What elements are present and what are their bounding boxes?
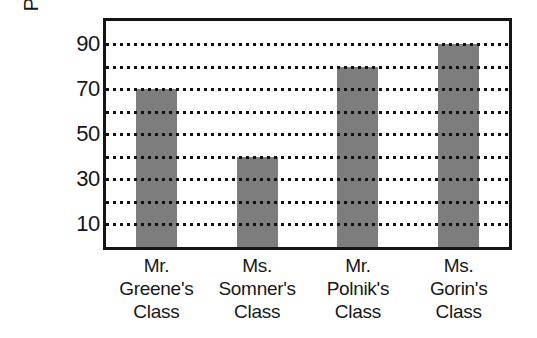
x-category-label-line: Mr. (106, 254, 207, 277)
x-category-label-line: Class (106, 300, 207, 323)
gridline-30 (106, 178, 509, 181)
y-tick-label-50: 50 (52, 123, 100, 145)
bar-chart-figure: Pounds of paper 9070503010 Mr.Greene'sCl… (0, 0, 537, 338)
x-axis-category-labels: Mr.Greene'sClassMs.Somner'sClassMr.Polni… (103, 254, 512, 338)
x-category-label-line: Mr. (308, 254, 409, 277)
gridline-40 (106, 156, 509, 159)
x-category-label-line: Ms. (408, 254, 509, 277)
gridline-80 (106, 66, 509, 69)
x-category-label-line: Somner's (207, 277, 308, 300)
y-tick-label-90: 90 (52, 33, 100, 55)
x-category-label-2: Mr.Polnik'sClass (308, 254, 409, 323)
x-category-label-line: Greene's (106, 277, 207, 300)
x-category-label-line: Class (207, 300, 308, 323)
y-tick-label-30: 30 (52, 168, 100, 190)
gridline-10 (106, 223, 509, 226)
x-category-label-line: Gorin's (408, 277, 509, 300)
bar-3 (438, 44, 479, 247)
gridline-70 (106, 88, 509, 91)
x-category-label-line: Ms. (207, 254, 308, 277)
gridline-50 (106, 133, 509, 136)
x-category-label-line: Class (308, 300, 409, 323)
x-category-label-line: Class (408, 300, 509, 323)
x-category-label-0: Mr.Greene'sClass (106, 254, 207, 323)
y-axis-title: Pounds of paper (14, 0, 48, 52)
y-axis-tick-labels: 9070503010 (52, 18, 100, 250)
gridline-90 (106, 43, 509, 46)
x-category-label-line: Polnik's (308, 277, 409, 300)
x-category-label-1: Ms.Somner'sClass (207, 254, 308, 323)
plot-area (103, 18, 512, 250)
y-tick-label-10: 10 (52, 213, 100, 235)
gridline-60 (106, 111, 509, 114)
y-tick-label-70: 70 (52, 78, 100, 100)
x-category-label-3: Ms.Gorin'sClass (408, 254, 509, 323)
gridline-20 (106, 201, 509, 204)
